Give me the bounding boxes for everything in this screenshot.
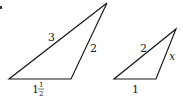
problem-marker: [0, 6, 2, 9]
large-triangle-shape: [9, 3, 107, 79]
similar-triangles-figure: 3 2 1 1 2 2 x 1: [0, 0, 183, 102]
small-base-label: 1: [132, 83, 139, 96]
small-triangle: 2 x 1: [114, 29, 176, 96]
large-left-side-label: 3: [48, 31, 55, 44]
large-triangle: 3 2 1 1 2: [9, 3, 107, 98]
small-left-side-label: 2: [140, 42, 147, 55]
large-base-whole: 1: [32, 83, 39, 96]
large-base-label: 1 1 2: [32, 81, 44, 98]
small-right-side-label: x: [169, 50, 176, 63]
large-base-frac-numerator: 1: [39, 81, 43, 89]
large-right-side-label: 2: [90, 42, 97, 55]
large-base-frac-denominator: 2: [39, 90, 43, 98]
